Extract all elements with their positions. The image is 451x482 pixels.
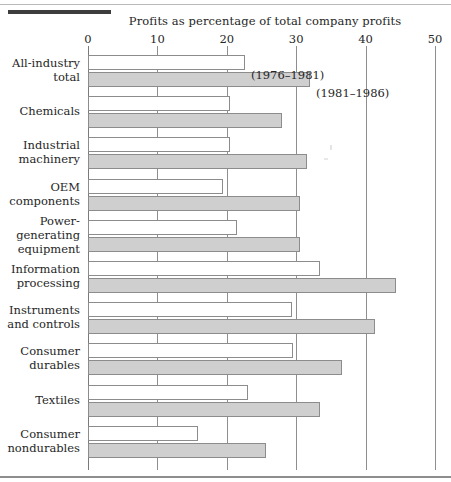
bar-period1 bbox=[88, 261, 320, 276]
legend-label-period-1: (1976–1981) bbox=[251, 68, 324, 82]
category-label-consumer-durables: Consumerdurables bbox=[0, 344, 80, 372]
bar-period1 bbox=[88, 179, 223, 194]
bar-period1 bbox=[88, 220, 237, 235]
bar-group bbox=[88, 137, 435, 169]
legend-label-period-2: (1981–1986) bbox=[316, 86, 389, 100]
category-label-line: Information bbox=[0, 262, 80, 276]
bar-period2 bbox=[88, 113, 282, 128]
bar-period2 bbox=[88, 196, 300, 211]
category-label-line: and controls bbox=[0, 317, 80, 331]
category-label-line: Consumer bbox=[0, 427, 80, 441]
category-label-line: equipment bbox=[0, 242, 80, 256]
scan-speckle bbox=[330, 145, 332, 150]
bar-period2 bbox=[88, 154, 307, 169]
bar-period1 bbox=[88, 55, 245, 70]
category-label-power-generating-equipment: Power-generatingequipment bbox=[0, 214, 80, 256]
bar-period1 bbox=[88, 426, 198, 441]
category-label-line: processing bbox=[0, 276, 80, 290]
bar-group bbox=[88, 220, 435, 252]
x-tick-label-10: 10 bbox=[150, 32, 165, 46]
bar-period1 bbox=[88, 302, 292, 317]
category-label-line: generating bbox=[0, 228, 80, 242]
bar-group bbox=[88, 96, 435, 128]
bar-group bbox=[88, 343, 435, 375]
category-label-line: All-industry bbox=[0, 56, 80, 70]
category-label-line: Chemicals bbox=[0, 104, 80, 118]
bar-group bbox=[88, 426, 435, 458]
x-tick-label-50: 50 bbox=[428, 32, 443, 46]
category-label-line: Consumer bbox=[0, 344, 80, 358]
category-label-all-industry-total: All-industrytotal bbox=[0, 56, 80, 84]
bar-period1 bbox=[88, 385, 248, 400]
x-tick-label-0: 0 bbox=[84, 32, 91, 46]
x-tick-label-20: 20 bbox=[219, 32, 234, 46]
bar-group bbox=[88, 302, 435, 334]
bar-period1 bbox=[88, 343, 293, 358]
bar-period2 bbox=[88, 360, 342, 375]
bar-group bbox=[88, 179, 435, 211]
category-label-information-processing: Informationprocessing bbox=[0, 262, 80, 290]
category-label-line: Industrial bbox=[0, 138, 80, 152]
category-label-line: Textiles bbox=[0, 393, 80, 407]
category-label-line: Power- bbox=[0, 214, 80, 228]
bar-period1 bbox=[88, 96, 230, 111]
category-label-line: nondurables bbox=[0, 441, 80, 455]
bar-period2 bbox=[88, 402, 320, 417]
gridline-50 bbox=[435, 46, 436, 470]
category-label-line: components bbox=[0, 194, 80, 208]
bar-period2 bbox=[88, 237, 300, 252]
category-label-oem-components: OEMcomponents bbox=[0, 180, 80, 208]
category-label-instruments-and-controls: Instrumentsand controls bbox=[0, 303, 80, 331]
category-label-industrial-machinery: Industrialmachinery bbox=[0, 138, 80, 166]
page-top-rule bbox=[0, 4, 451, 5]
scan-speckle bbox=[324, 158, 328, 160]
category-label-line: OEM bbox=[0, 180, 80, 194]
category-label-consumer-nondurables: Consumernondurables bbox=[0, 427, 80, 455]
bar-period1 bbox=[88, 137, 230, 152]
bar-group bbox=[88, 261, 435, 293]
category-label-chemicals: Chemicals bbox=[0, 104, 80, 118]
chart-figure: Profits as percentage of total company p… bbox=[0, 0, 451, 482]
page-bottom-rule bbox=[0, 476, 451, 478]
category-label-textiles: Textiles bbox=[0, 393, 80, 407]
category-label-line: machinery bbox=[0, 152, 80, 166]
category-label-line: total bbox=[0, 70, 80, 84]
category-label-line: durables bbox=[0, 358, 80, 372]
plot-area bbox=[88, 46, 435, 470]
bar-period2 bbox=[88, 278, 396, 293]
bar-period2 bbox=[88, 443, 266, 458]
chart-title: Profits as percentage of total company p… bbox=[90, 14, 440, 28]
category-label-line: Instruments bbox=[0, 303, 80, 317]
bar-period2 bbox=[88, 319, 375, 334]
x-tick-label-30: 30 bbox=[289, 32, 304, 46]
bar-group bbox=[88, 385, 435, 417]
x-tick-label-40: 40 bbox=[358, 32, 373, 46]
